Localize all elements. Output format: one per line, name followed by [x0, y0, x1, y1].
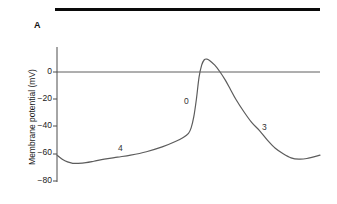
action-potential-trace: [57, 59, 320, 163]
action-potential-plot: [0, 0, 337, 204]
y-axis-ticks: [53, 72, 57, 181]
figure-panel: A Membrane potential (mV) 0 −20 −40 −60 …: [0, 0, 337, 204]
